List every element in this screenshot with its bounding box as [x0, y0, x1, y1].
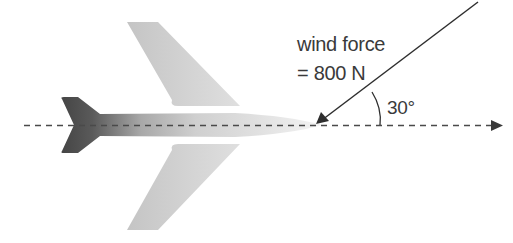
wind-force-arrowhead — [316, 112, 329, 124]
centre-line-arrowhead — [491, 120, 503, 131]
wing-top — [127, 22, 240, 106]
diagram-canvas — [0, 0, 513, 243]
wing-bottom — [127, 144, 240, 230]
angle-label: 30° — [387, 97, 415, 119]
wind-force-diagram: wind force = 800 N 30° — [0, 0, 513, 243]
force-magnitude-label: = 800 N — [297, 62, 366, 84]
force-label-line1: wind force — [297, 33, 385, 55]
angle-arc — [372, 92, 380, 125]
